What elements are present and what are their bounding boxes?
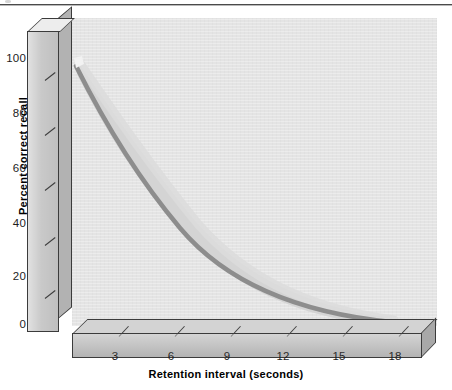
y-axis-front-face xyxy=(27,31,59,332)
y-tick-label-100: 100 xyxy=(0,52,26,64)
x-axis-title: Retention interval (seconds) xyxy=(0,368,452,380)
y-axis-side-face xyxy=(58,6,72,319)
x-tick-label-3: 3 xyxy=(101,350,129,362)
curve-ribbon-highlight xyxy=(79,62,394,320)
y-tick-80 xyxy=(45,127,56,136)
y-tick-40 xyxy=(45,237,56,246)
y-tick-label-0: 0 xyxy=(0,318,26,330)
x-tick-label-9: 9 xyxy=(213,350,241,362)
curve-ribbon-band xyxy=(77,61,398,327)
x-axis-front-face: 3 6 9 12 15 18 xyxy=(72,333,422,358)
x-axis-bar: 3 6 9 12 15 18 xyxy=(72,319,438,363)
curve-line xyxy=(76,66,392,322)
y-tick-20 xyxy=(45,290,56,299)
chart-figure: 100 80 60 40 20 0 Percent correct recall… xyxy=(0,0,452,390)
x-tick-label-15: 15 xyxy=(325,350,353,362)
x-tick-label-12: 12 xyxy=(269,350,297,362)
y-tick-60 xyxy=(45,182,56,191)
y-axis-column xyxy=(27,18,73,332)
y-tick-100 xyxy=(45,72,56,81)
y-axis-title: Percent correct recall xyxy=(17,71,29,241)
y-tick-label-20: 20 xyxy=(0,270,26,282)
x-tick-label-6: 6 xyxy=(157,350,185,362)
x-tick-label-18: 18 xyxy=(381,350,409,362)
